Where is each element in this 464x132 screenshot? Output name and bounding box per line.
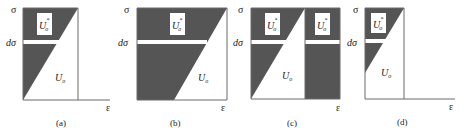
- d-sigma-strip: [251, 40, 340, 44]
- strain-energy-label: Uo: [282, 70, 292, 82]
- d-sigma-label: dσ: [6, 37, 17, 48]
- caption-d: (d): [397, 117, 408, 127]
- d-sigma-strip: [23, 40, 78, 44]
- caption-c: (c): [287, 118, 297, 128]
- strain-energy-label: Uo: [55, 72, 65, 84]
- epsilon-label: ε: [106, 102, 110, 113]
- sigma-label: σ: [11, 4, 17, 15]
- epsilon-label: ε: [449, 101, 453, 112]
- strain-energy-label: Uo: [198, 72, 208, 84]
- d-sigma-strip: [365, 39, 404, 43]
- d-sigma-strip: [137, 40, 207, 44]
- panel-d: σ dσ U*o Uo ε (d): [347, 4, 455, 127]
- panel-b: σ dσ U*o Uo ε (b): [118, 4, 227, 128]
- d-sigma-label: dσ: [118, 37, 129, 48]
- strain-energy-label: Uo: [381, 67, 391, 79]
- sigma-label: σ: [238, 4, 244, 15]
- d-sigma-label: dσ: [233, 37, 244, 48]
- panel-a: σ dσ U*o Uo ε (a): [6, 4, 110, 128]
- sigma-label: σ: [353, 4, 359, 15]
- sigma-label: σ: [124, 4, 130, 15]
- caption-a: (a): [56, 118, 66, 128]
- epsilon-label: ε: [221, 102, 225, 113]
- d-sigma-label: dσ: [347, 37, 358, 48]
- panel-c: σ dσ U*o U*o Uo ε (c): [233, 4, 340, 128]
- stress-strain-energy-figure: σ dσ U*o Uo ε (a) σ dσ U*o Uo ε (b) σ dσ: [0, 0, 464, 132]
- caption-b: (b): [170, 118, 181, 128]
- epsilon-label: ε: [336, 102, 340, 113]
